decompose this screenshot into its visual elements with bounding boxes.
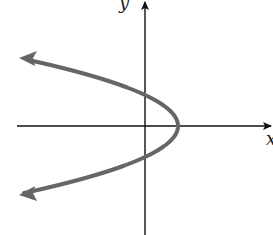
y-axis-label: y <box>119 0 129 12</box>
parabola-graph: y x <box>0 0 273 235</box>
lower-arrow-icon <box>19 186 37 201</box>
graph-canvas <box>0 0 273 235</box>
x-axis-label: x <box>266 130 273 148</box>
upper-arrow-icon <box>19 51 37 66</box>
